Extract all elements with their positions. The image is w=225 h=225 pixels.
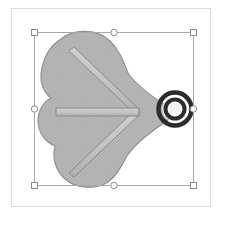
handle-top-right[interactable] — [191, 30, 197, 36]
concentric-ring-target[interactable] — [159, 93, 192, 126]
handle-middle-left[interactable] — [31, 106, 37, 112]
handle-bottom-left[interactable] — [32, 183, 38, 189]
artwork-layer — [12, 9, 210, 206]
app-root — [0, 0, 225, 225]
target-center — [169, 103, 182, 116]
handle-middle-right[interactable] — [190, 106, 196, 112]
handle-bottom-right[interactable] — [191, 183, 197, 189]
artwork-svg — [12, 9, 210, 206]
handle-top-center[interactable] — [111, 29, 117, 35]
handle-top-left[interactable] — [32, 30, 38, 36]
drawing-canvas[interactable] — [11, 8, 211, 207]
handle-bottom-center[interactable] — [111, 182, 117, 188]
